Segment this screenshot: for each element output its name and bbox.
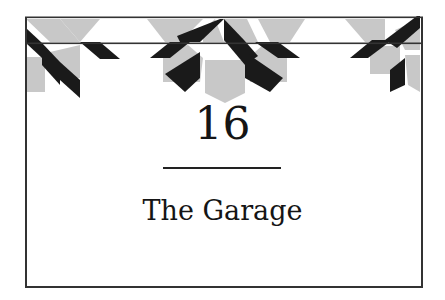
frame-right-border xyxy=(421,17,423,287)
divider-rule xyxy=(163,167,281,169)
chapter-number: 16 xyxy=(0,98,445,150)
chapter-title-page: 16 The Garage xyxy=(0,0,445,300)
quilt-star-border-icon xyxy=(0,0,445,110)
frame-bottom-border xyxy=(25,286,423,288)
frame-left-border xyxy=(25,17,27,287)
chapter-title: The Garage xyxy=(0,192,445,230)
